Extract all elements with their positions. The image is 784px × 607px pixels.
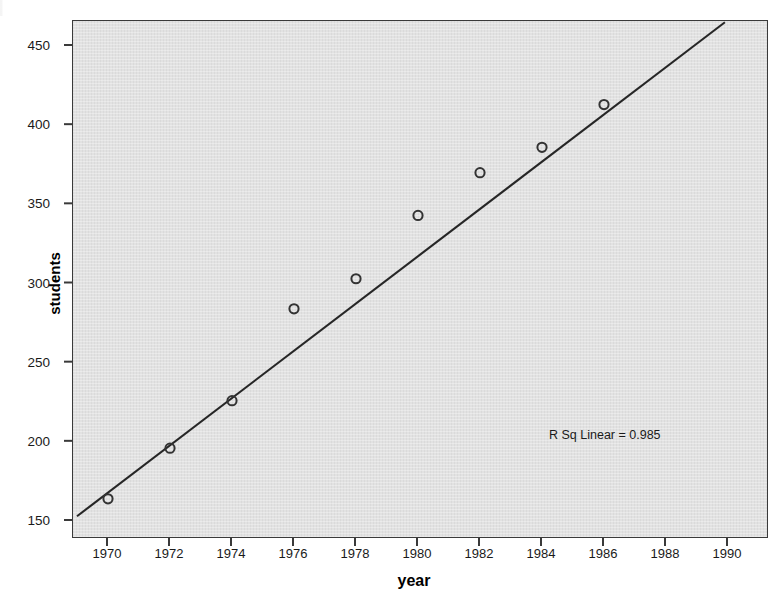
x-tick-label: 1990 [713, 546, 742, 561]
x-axis-tick-labels: 1970197219741976197819801982198419861988… [0, 0, 784, 607]
x-tick-label: 1982 [465, 546, 494, 561]
x-tick-label: 1972 [155, 546, 184, 561]
x-tick-label: 1978 [341, 546, 370, 561]
x-tick-label: 1980 [403, 546, 432, 561]
y-axis-title: students [46, 224, 63, 344]
x-tick-label: 1976 [279, 546, 308, 561]
x-tick-label: 1986 [589, 546, 618, 561]
scatter-chart-figure: 150200250300350400450 197019721974197619… [0, 0, 784, 607]
x-tick-label: 1970 [93, 546, 122, 561]
x-tick-label: 1974 [217, 546, 246, 561]
r-squared-annotation: R Sq Linear = 0.985 [549, 428, 661, 442]
x-tick-label: 1984 [527, 546, 556, 561]
x-axis-title: year [0, 572, 784, 590]
x-tick-label: 1988 [651, 546, 680, 561]
